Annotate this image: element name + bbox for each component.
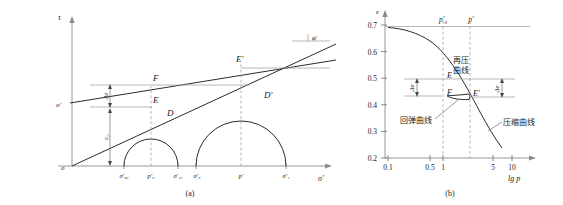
panel-a-point-f-label: F [152, 73, 159, 83]
panel-a-cohesion-origin-label: o′ [56, 101, 62, 109]
panel-b-xtick-label-3: 5 [491, 163, 495, 172]
panel-a-point-e-label: E [152, 95, 159, 105]
panel-b-x-axis-arrow [529, 155, 536, 160]
panel-b-recompression-curve-label-line2: 曲线 [453, 65, 469, 75]
panel-a-y-axis-label: τ [58, 13, 62, 22]
panel-a-x-axis-label: σ′ [318, 174, 324, 183]
panel-b-xtick-label-1: 0.5 [425, 163, 435, 172]
panel-b-leader-rebound [435, 100, 458, 119]
panel-b-ytick-label-0: 0.7 [368, 21, 378, 30]
panel-b-ytick-label-4: 0.3 [368, 127, 378, 136]
panel-b-compression-curve: e lg p 0.7 0.6 0.5 0.4 0.3 0.2 0.1 0.5 1… [330, 0, 563, 205]
panel-b-top-label-p-prime: p′ [467, 15, 474, 24]
panel-b-delta-e-small-label: Δe [408, 84, 416, 92]
panel-a-circle-d-prime-label: D′ [263, 90, 273, 100]
panel-b-ytick-label-3: 0.4 [368, 101, 378, 110]
panel-b-y-axis-arrow [382, 10, 387, 17]
panel-b-xtick-label-2: 1 [441, 163, 445, 172]
panel-b-leader-compression [488, 122, 502, 131]
panel-b-point-f-label: F [446, 88, 452, 97]
panel-a-origin-label: o [61, 164, 65, 172]
panel-a-xtick-label-sigma3: σ′₃ [194, 172, 201, 179]
panel-b-top-label-p0: p′₀ [438, 15, 447, 24]
panel-b-compression-curve-path [388, 28, 502, 149]
panel-a-circle-d-label: D [166, 108, 174, 118]
panel-a-delta-tau-label: Δτ [102, 92, 110, 100]
panel-b-x-axis-label: lg p [508, 174, 520, 183]
panel-a-xtick-label-p-prime: p′ [238, 172, 244, 179]
panel-b-rebound-curve-label: 回弹曲线 [400, 115, 432, 125]
panel-a-cohesion-label: c₀ [102, 134, 110, 140]
panel-b-y-axis-label: e [376, 8, 379, 16]
panel-b-xtick-label-4: 10 [508, 163, 516, 172]
panel-b-compression-curve-label: 压缩曲线 [503, 117, 535, 127]
panel-b-point-e-label: E [446, 71, 452, 80]
panel-a-xtick-label-sigma1-0: σ′₁₀ [173, 172, 182, 179]
panel-b-delta-e-large-label: Δe [493, 85, 501, 93]
panel-a-xtick-label-sigma3-0: σ′₃₀ [119, 172, 128, 179]
panel-a-xtick-label-sigma1: σ′₁ [283, 172, 290, 179]
figure-root: τ σ′ o o′ F E E′ D D′ Δτ c₀ φ′ σ′₃₀ p′₀ … [0, 0, 563, 205]
panel-b-ytick-label-2: 0.5 [368, 74, 378, 83]
panel-b-ytick-label-1: 0.6 [368, 48, 378, 57]
panel-a-dim-cohesion-arrow-bottom [108, 161, 112, 166]
panel-b-caption: (b) [445, 189, 455, 198]
panel-b-point-e-prime-label: E′ [472, 89, 480, 98]
panel-a-origin-envelope [72, 44, 336, 166]
panel-a-y-axis-arrow [69, 16, 74, 23]
panel-b-xtick-label-0: 0.1 [383, 163, 393, 172]
panel-a-mohr-envelope: τ σ′ o o′ F E E′ D D′ Δτ c₀ φ′ σ′₃₀ p′₀ … [0, 0, 340, 205]
panel-a-point-e-prime-label: E′ [235, 54, 244, 64]
panel-a-friction-angle-label: φ′ [312, 34, 318, 42]
panel-b-recompression-curve-label-line1: 再压 [453, 56, 469, 65]
panel-a-caption: (a) [186, 189, 195, 198]
panel-b-ytick-label-5: 0.2 [368, 154, 378, 163]
panel-a-dim-cohesion-arrow-top [108, 108, 112, 113]
panel-a-xtick-label-p0: p′₀ [147, 172, 155, 179]
